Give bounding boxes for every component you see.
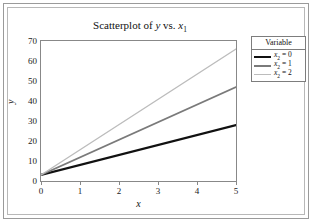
x-axis-tick-mark — [80, 182, 81, 185]
x-axis-tick-label: 2 — [109, 187, 129, 196]
y-axis-tick-label: 0 — [11, 177, 37, 186]
legend-item-label: x2 = 2 — [274, 68, 292, 81]
chart-title: Scatterplot of y vs. x1 — [40, 19, 240, 36]
x-axis-label: x — [40, 198, 237, 209]
legend-title: Variable — [252, 38, 305, 50]
series-line-0 — [41, 125, 236, 175]
y-axis-tick-label: 30 — [11, 117, 37, 126]
plot-lines-svg — [41, 41, 236, 181]
legend-entries: x2 = 0x2 = 1x2 = 2 — [254, 52, 303, 79]
x-axis-tick-mark — [41, 182, 42, 185]
y-axis-tick-label: 50 — [11, 77, 37, 86]
chart-title-middle: vs. — [160, 19, 178, 31]
x-axis-tick-mark — [236, 182, 237, 185]
plot-area — [40, 40, 237, 182]
chart-title-xvar-subscript: 1 — [183, 25, 187, 34]
legend-item[interactable]: x2 = 2 — [254, 70, 303, 79]
legend-line-swatch — [254, 74, 271, 75]
y-axis-tick-labels: 010203040506070 — [8, 40, 37, 182]
x-axis-tick-mark — [158, 182, 159, 185]
y-axis-label: y — [5, 100, 16, 104]
x-axis-tick-label: 0 — [31, 187, 51, 196]
x-axis-tick-label: 1 — [70, 187, 90, 196]
y-axis-tick-label: 20 — [11, 137, 37, 146]
scatterplot-figure: Scatterplot of y vs. x1 010203040506070 … — [0, 0, 314, 224]
x-axis-tick-label: 5 — [226, 187, 246, 196]
y-axis-tick-label: 70 — [11, 37, 37, 46]
x-axis-tick-label: 3 — [148, 187, 168, 196]
series-line-1 — [41, 87, 236, 175]
x-axis-tick-mark — [197, 182, 198, 185]
chart-title-prefix: Scatterplot of — [93, 19, 155, 31]
y-axis-tick-label: 10 — [11, 157, 37, 166]
legend: Variable x2 = 0x2 = 1x2 = 2 — [251, 36, 306, 82]
series-line-2 — [41, 49, 236, 175]
legend-line-swatch — [254, 56, 271, 58]
x-axis-tick-mark — [119, 182, 120, 185]
y-axis-tick-label: 60 — [11, 57, 37, 66]
x-axis-tick-label: 4 — [187, 187, 207, 196]
legend-line-swatch — [254, 65, 271, 67]
